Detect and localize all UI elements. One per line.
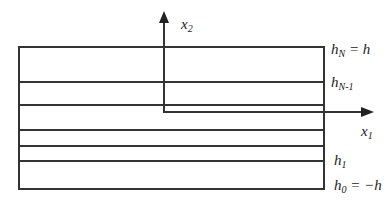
label-hN-1: hN-1 (331, 75, 354, 92)
x1-arrowhead-icon (361, 107, 374, 117)
label-hN: hN = h (331, 42, 370, 59)
x2-label-base: x (181, 16, 188, 32)
x1-label-base: x (361, 123, 368, 139)
label-h1: h1 (334, 153, 347, 170)
x1-label-sub: 1 (368, 130, 373, 141)
x2-arrowhead-icon (159, 11, 169, 23)
label-h1-base: h (334, 152, 342, 168)
laminate-diagram (0, 0, 391, 205)
label-h1-sub: 1 (342, 159, 347, 170)
x1-axis-label: x1 (361, 124, 373, 141)
label-h0-rest: = −h (347, 177, 382, 193)
x2-label-sub: 2 (188, 23, 193, 34)
label-h0-base: h (334, 177, 342, 193)
label-hN-base: h (331, 41, 339, 57)
label-hN-rest: = h (345, 41, 370, 57)
label-h0: h0 = −h (334, 178, 382, 195)
x2-axis-label: x2 (181, 17, 193, 34)
label-hN-1-base: h (331, 74, 339, 90)
label-hN-1-sub: N-1 (339, 81, 354, 92)
laminate-outline (19, 47, 324, 189)
